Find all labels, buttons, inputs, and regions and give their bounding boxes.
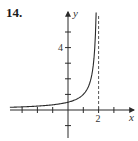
function-curve (10, 13, 96, 108)
x-axis-label: x (128, 111, 134, 123)
graph: y x 24 (0, 0, 138, 141)
x-tick-label: 2 (96, 113, 101, 124)
y-tick-label: 4 (58, 42, 63, 53)
y-axis-label: y (72, 7, 78, 19)
